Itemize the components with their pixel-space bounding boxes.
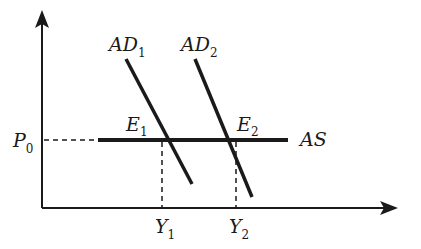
ad2-label: AD2 <box>179 33 218 60</box>
as-label: AS <box>298 128 327 150</box>
ad-as-diagram: P0 AD1 AD2 E1 E2 AS Y1 Y2 <box>0 0 421 249</box>
y1-label: Y1 <box>155 215 175 242</box>
e2-label: E2 <box>236 113 259 139</box>
ad1-label: AD1 <box>107 33 146 60</box>
e1-label: E1 <box>125 113 148 139</box>
y2-label: Y2 <box>229 215 249 242</box>
p0-label: P0 <box>12 129 33 156</box>
